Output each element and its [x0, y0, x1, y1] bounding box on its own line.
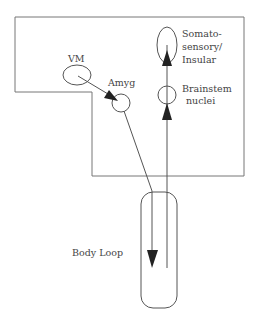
- amyg-body-edge: [124, 111, 152, 258]
- somato-label-1: Somato-: [182, 28, 222, 39]
- body-loop-diagram: VM Amyg Somato- sensory/ Insular Brainst…: [0, 0, 259, 329]
- arrowhead-up-icon: [162, 103, 172, 120]
- arrowhead-down-icon: [147, 250, 158, 268]
- amyg-label: Amyg: [107, 77, 135, 88]
- vm-amyg-edge: [78, 76, 108, 94]
- body-loop-node: [141, 192, 177, 308]
- somato-label-3: Insular: [182, 54, 217, 65]
- vm-label: VM: [67, 53, 85, 64]
- body-loop-label: Body Loop: [72, 247, 123, 258]
- brainstem-label-1: Brainstem: [182, 83, 232, 94]
- somato-label-2: sensory/: [182, 41, 223, 52]
- brainstem-label-2: nuclei: [186, 95, 215, 106]
- vm-node: [63, 65, 91, 85]
- amyg-node: [112, 94, 130, 112]
- arrowhead-up-icon-2: [162, 50, 172, 66]
